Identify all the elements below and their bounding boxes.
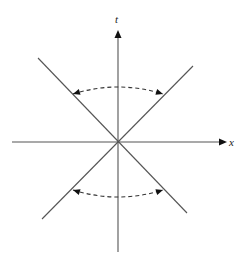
x-axis-arrow-icon (219, 139, 227, 146)
diagonal-line-nw-se (38, 58, 187, 213)
t-axis-label: t (115, 13, 119, 25)
lower-arc-left-arrow-icon (73, 189, 81, 195)
upper-arc-left-arrow-icon (73, 89, 81, 95)
t-axis-arrow-icon (115, 30, 122, 38)
upper-arc-right-arrow-icon (155, 89, 163, 95)
x-axis-label: x (228, 136, 234, 148)
spacetime-diagram: x t (0, 0, 245, 260)
lower-arc-right-arrow-icon (155, 189, 163, 195)
